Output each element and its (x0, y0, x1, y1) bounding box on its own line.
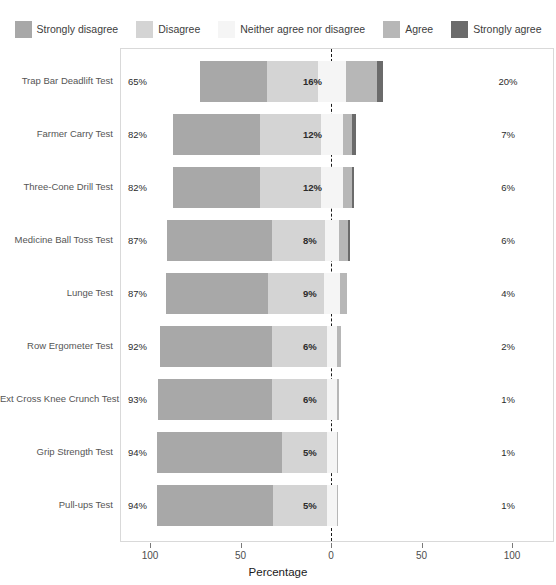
y-axis-category-label: Trap Bar Deadlift Test (0, 76, 113, 86)
neutral-percent-label: 16% (303, 76, 322, 87)
neutral-percent-label: 6% (303, 341, 317, 352)
strongly-disagree-segment (167, 220, 272, 261)
legend-label: Strongly disagree (37, 23, 119, 35)
bar-stack (200, 61, 383, 102)
y-axis-category-label: Farmer Carry Test (0, 129, 113, 139)
x-axis-tick-label: 50 (235, 550, 246, 561)
agree-segment (346, 61, 377, 102)
disagree-segment (272, 326, 326, 367)
x-axis-tick-label: 100 (142, 550, 159, 561)
neutral-segment (327, 326, 338, 367)
neutral-percent-label: 5% (303, 447, 317, 458)
strongly-agree-segment (352, 167, 354, 208)
x-axis-tick (422, 543, 423, 548)
legend-swatch-icon (136, 21, 153, 38)
strongly-disagree-segment (200, 61, 267, 102)
right-total-label: 6% (501, 235, 515, 246)
x-axis-tick (512, 543, 513, 548)
strongly-disagree-segment (166, 273, 267, 314)
chart-legend: Strongly disagreeDisagreeNeither agree n… (0, 16, 556, 42)
left-total-label: 87% (128, 235, 147, 246)
agree-segment (340, 273, 347, 314)
x-axis-tick-label: 50 (416, 550, 427, 561)
strongly-disagree-segment (157, 485, 273, 526)
bar-stack (167, 220, 350, 261)
legend-label: Strongly agree (473, 23, 541, 35)
legend-swatch-icon (383, 21, 400, 38)
neutral-segment (325, 220, 339, 261)
disagree-segment (273, 485, 327, 526)
strongly-agree-segment (348, 220, 350, 261)
agree-segment (337, 485, 339, 526)
agree-segment (337, 432, 339, 473)
agree-segment (339, 220, 348, 261)
x-axis-tick (331, 543, 332, 548)
legend-swatch-icon (218, 21, 235, 38)
plot-panel (120, 48, 554, 542)
strongly-agree-segment (352, 114, 356, 155)
neutral-segment (327, 485, 336, 526)
right-total-label: 7% (501, 129, 515, 140)
agree-segment (337, 326, 341, 367)
left-total-label: 93% (128, 394, 147, 405)
neutral-percent-label: 8% (303, 235, 317, 246)
right-total-label: 1% (501, 500, 515, 511)
strongly-disagree-segment (173, 167, 260, 208)
legend-label: Agree (405, 23, 433, 35)
legend-swatch-icon (451, 21, 468, 38)
legend-item: Disagree (136, 21, 200, 38)
neutral-percent-label: 6% (303, 394, 317, 405)
y-axis-category-label: Medicine Ball Toss Test (0, 235, 113, 245)
neutral-segment (324, 273, 340, 314)
strongly-disagree-segment (157, 432, 282, 473)
strongly-disagree-segment (158, 379, 272, 420)
y-axis-category-label: Lunge Test (0, 288, 113, 298)
left-total-label: 87% (128, 288, 147, 299)
agree-segment (343, 167, 352, 208)
legend-item: Neither agree nor disagree (218, 21, 365, 38)
right-total-label: 1% (501, 394, 515, 405)
legend-item: Strongly agree (451, 21, 541, 38)
strongly-disagree-segment (160, 326, 272, 367)
left-total-label: 92% (128, 341, 147, 352)
disagree-segment (272, 379, 326, 420)
agree-segment (337, 379, 339, 420)
bar-stack (166, 273, 347, 314)
x-axis-tick-label: 0 (328, 550, 334, 561)
right-total-label: 1% (501, 447, 515, 458)
likert-diverging-bar-chart: Strongly disagreeDisagreeNeither agree n… (0, 0, 556, 585)
left-total-label: 94% (128, 500, 147, 511)
bar-stack (173, 167, 354, 208)
y-axis-category-label: Three-Cone Drill Test (0, 182, 113, 192)
left-total-label: 94% (128, 447, 147, 458)
right-total-label: 6% (501, 182, 515, 193)
right-total-label: 2% (501, 341, 515, 352)
neutral-percent-label: 9% (303, 288, 317, 299)
legend-item: Agree (383, 21, 433, 38)
y-axis-category-label: Row Ergometer Test (0, 341, 113, 351)
strongly-disagree-segment (173, 114, 260, 155)
legend-swatch-icon (15, 21, 32, 38)
neutral-segment (321, 114, 343, 155)
left-total-label: 82% (128, 129, 147, 140)
right-total-label: 4% (501, 288, 515, 299)
neutral-percent-label: 5% (303, 500, 317, 511)
neutral-segment (321, 167, 343, 208)
y-axis-category-label: Ext Cross Knee Crunch Test (0, 394, 113, 404)
y-axis-category-label: Grip Strength Test (0, 447, 113, 457)
legend-item: Strongly disagree (15, 21, 119, 38)
left-total-label: 82% (128, 182, 147, 193)
x-axis-tick (241, 543, 242, 548)
legend-label: Disagree (158, 23, 200, 35)
bar-stack (173, 114, 356, 155)
y-axis-category-label: Pull-ups Test (0, 500, 113, 510)
x-axis-tick-label: 100 (504, 550, 521, 561)
right-total-label: 20% (498, 76, 517, 87)
strongly-agree-segment (377, 61, 382, 102)
agree-segment (343, 114, 352, 155)
neutral-segment (327, 432, 336, 473)
x-axis-tick (150, 543, 151, 548)
neutral-percent-label: 12% (303, 182, 322, 193)
left-total-label: 65% (128, 76, 147, 87)
neutral-segment (327, 379, 338, 420)
